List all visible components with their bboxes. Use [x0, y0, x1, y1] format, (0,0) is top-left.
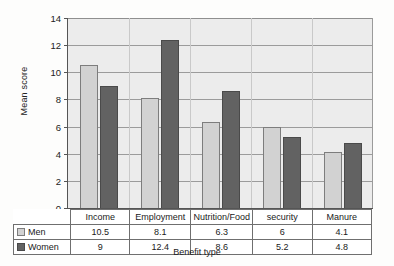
y-tick-label-10: 10 — [50, 67, 61, 78]
plot-area: 02468101214 — [67, 18, 373, 209]
gridline-14 — [68, 18, 373, 19]
y-tick-2 — [64, 181, 68, 182]
bar-men-manure — [324, 152, 342, 208]
y-tick-8 — [64, 99, 68, 100]
bar-men-income — [80, 65, 98, 208]
y-tick-label-12: 12 — [50, 40, 61, 51]
table-category-income: Income — [70, 210, 129, 225]
table-value-men-security: 6 — [253, 225, 312, 240]
y-tick-label-4: 4 — [56, 149, 61, 160]
y-tick-14 — [64, 18, 68, 19]
table-category-nutrition-food: Nutrition/Food — [191, 210, 253, 225]
x-axis-title: Benefit type — [0, 247, 394, 257]
legend-swatch-icon-men — [17, 228, 25, 236]
bar-women-income — [100, 86, 118, 208]
bar-chart-figure: Mean score 02468101214 IncomeEmploymentN… — [0, 0, 394, 266]
bar-women-employment — [161, 40, 179, 208]
group-separator-Employment — [129, 18, 130, 208]
bar-women-security — [283, 137, 301, 208]
y-tick-10 — [64, 72, 68, 73]
y-tick-label-14: 14 — [50, 13, 61, 24]
y-tick-label-6: 6 — [56, 122, 61, 133]
table-row: Men10.58.16.364.1 — [14, 225, 372, 240]
bar-men-employment — [141, 98, 159, 208]
legend-label-men: Men — [28, 227, 46, 237]
y-tick-12 — [64, 45, 68, 46]
y-tick-6 — [64, 127, 68, 128]
plot-inner: 02468101214 — [68, 18, 373, 208]
group-separator-Nutrition/Food — [190, 18, 191, 208]
table-category-employment: Employment — [130, 210, 191, 225]
y-axis-title: Mean score — [19, 41, 29, 141]
bar-women-nutrition-food — [222, 91, 240, 208]
bar-women-manure — [344, 143, 362, 208]
plot-right-edge — [372, 18, 373, 208]
group-separator-Manure — [312, 18, 313, 208]
gridline-10 — [68, 72, 373, 73]
gridline-12 — [68, 45, 373, 46]
y-tick-label-8: 8 — [56, 94, 61, 105]
table-value-men-employment: 8.1 — [130, 225, 191, 240]
y-tick-label-2: 2 — [56, 176, 61, 187]
table-category-security: security — [253, 210, 312, 225]
y-tick-4 — [64, 154, 68, 155]
legend-item-men[interactable]: Men — [14, 225, 71, 240]
table-corner-cell — [14, 210, 71, 225]
group-separator-security — [251, 18, 252, 208]
table-head: IncomeEmploymentNutrition/FoodsecurityMa… — [14, 210, 372, 225]
table-value-men-income: 10.5 — [70, 225, 129, 240]
bar-men-nutrition-food — [202, 122, 220, 208]
table-value-men-nutrition-food: 6.3 — [191, 225, 253, 240]
bar-men-security — [263, 127, 281, 208]
table-category-manure: Manure — [312, 210, 371, 225]
table-header-row: IncomeEmploymentNutrition/FoodsecurityMa… — [14, 210, 372, 225]
table-value-men-manure: 4.1 — [312, 225, 371, 240]
